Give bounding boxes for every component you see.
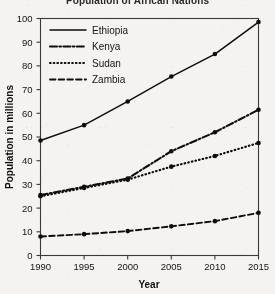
data-point [213,130,218,135]
data-point [169,164,174,169]
y-tick-label: 50 [22,131,33,142]
data-point [213,154,218,159]
legend-item-kenya[interactable]: Kenya [50,41,121,52]
x-axis-tick-labels: 199019952000200520102015 [30,261,269,272]
y-tick-label: 30 [22,179,33,190]
data-point [82,186,87,191]
data-point [38,138,43,143]
data-point [256,20,261,25]
data-point [125,229,130,234]
x-tick-label: 1990 [30,261,51,272]
y-axis-tick-labels: 0102030405060708090100 [17,13,33,261]
y-axis-ticks [37,19,41,256]
data-point [213,52,218,57]
y-tick-label: 80 [22,60,33,71]
data-series-group [38,20,261,239]
x-axis-title: Year [138,279,159,290]
x-tick-label: 2010 [204,261,225,272]
data-point [38,234,43,239]
series-zambia [38,211,261,239]
data-point [169,149,174,154]
y-axis-title: Population in millions [4,85,15,189]
y-tick-label: 0 [27,250,32,261]
legend-item-sudan[interactable]: Sudan [50,58,121,69]
y-tick-label: 90 [22,37,33,48]
y-tick-label: 70 [22,84,33,95]
chart-page: Population of African Nations 0102030405… [0,0,275,294]
y-tick-label: 100 [17,13,33,24]
data-point [256,107,261,112]
data-point [256,141,261,146]
data-point [125,99,130,104]
x-tick-label: 2000 [117,261,138,272]
population-line-chart: 0102030405060708090100 19901995200020052… [0,0,275,294]
legend-item-zambia[interactable]: Zambia [50,74,126,85]
y-tick-label: 20 [22,203,33,214]
data-point [82,232,87,237]
legend-item-ethiopia[interactable]: Ethiopia [50,25,129,36]
y-tick-label: 40 [22,155,33,166]
series-line-kenya [41,110,259,195]
legend-label-zambia: Zambia [92,74,126,85]
data-point [169,224,174,229]
legend-label-kenya: Kenya [92,41,121,52]
series-line-zambia [41,213,259,237]
x-axis-ticks [41,256,259,260]
x-tick-label: 2005 [161,261,182,272]
series-ethiopia [38,20,261,143]
data-point [38,194,43,199]
chart-legend: EthiopiaKenyaSudanZambia [50,25,129,86]
legend-label-ethiopia: Ethiopia [92,25,129,36]
data-point [169,74,174,79]
x-tick-label: 2015 [248,261,269,272]
data-point [213,219,218,224]
legend-label-sudan: Sudan [92,58,121,69]
y-tick-label: 10 [22,226,33,237]
series-line-ethiopia [41,22,259,141]
data-point [82,123,87,128]
data-point [256,211,261,216]
y-tick-label: 60 [22,108,33,119]
data-point [125,177,130,182]
x-tick-label: 1995 [74,261,95,272]
